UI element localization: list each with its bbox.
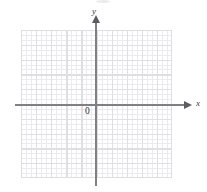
x-axis-arrow-icon: [184, 101, 192, 109]
y-axis-line: [95, 22, 97, 186]
x-axis-line: [15, 104, 185, 106]
x-axis-label: x: [196, 99, 200, 108]
top-edge-artifact: [96, 0, 110, 3]
y-axis-arrow-icon: [92, 15, 100, 23]
y-axis-label: y: [92, 7, 96, 16]
origin-label: 0: [85, 107, 90, 117]
coordinate-plane-figure: y x 0: [0, 0, 207, 192]
